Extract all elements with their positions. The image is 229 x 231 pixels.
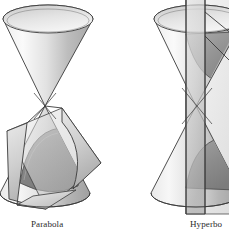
hyperbola-caption: Hyperbo	[190, 219, 222, 230]
parabola-figure	[0, 5, 101, 209]
hyperbola-cutting-plane-front	[186, 0, 205, 214]
parabola-caption: Parabola	[31, 219, 63, 230]
conic-sections-illustration	[0, 0, 229, 231]
hyperbola-figure	[151, 0, 229, 214]
